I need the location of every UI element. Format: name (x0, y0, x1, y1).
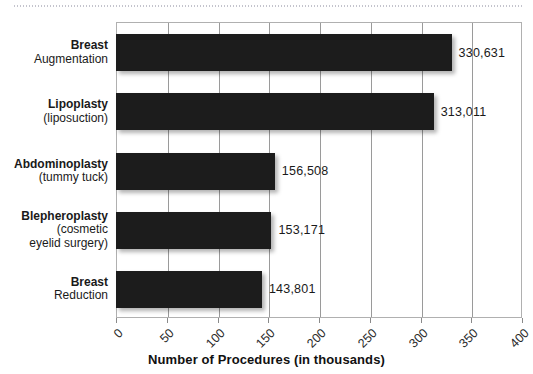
x-tick-mark (218, 318, 219, 323)
bar[interactable] (116, 93, 434, 130)
bar-row: 143,801 (116, 271, 522, 308)
x-tick-mark (471, 318, 472, 323)
bar[interactable] (116, 153, 275, 190)
category-label-line: (cosmetic (2, 223, 108, 237)
category-label-line: (liposuction) (2, 112, 108, 126)
bar-row: 313,011 (116, 93, 522, 130)
bar-row: 156,508 (116, 153, 522, 190)
x-tick-mark (167, 318, 168, 323)
bar-value-label: 156,508 (282, 164, 329, 178)
scan-artifact-dotted-line (14, 5, 522, 7)
bar-value-label: 143,801 (269, 282, 316, 296)
bar-value-label: 330,631 (459, 46, 506, 60)
category-label: Blepheroplasty(cosmeticeyelid surgery) (2, 210, 108, 251)
category-label-line: Reduction (2, 289, 108, 303)
category-label-line: (tummy tuck) (2, 171, 108, 185)
x-tick-mark (319, 318, 320, 323)
category-label-line: Lipoplasty (2, 98, 108, 112)
category-label: Lipoplasty(liposuction) (2, 98, 108, 125)
category-label: Abdominoplasty(tummy tuck) (2, 158, 108, 185)
bar-row: 153,171 (116, 212, 522, 249)
category-label: BreastReduction (2, 276, 108, 303)
bar-value-label: 313,011 (441, 105, 487, 119)
category-label-line: Augmentation (2, 53, 108, 67)
category-label-line: Breast (2, 39, 108, 53)
bar-chart-figure: Number of Procedures (in thousands) 330,… (0, 0, 533, 374)
bar-value-label: 153,171 (278, 223, 325, 237)
category-label-line: Breast (2, 276, 108, 290)
category-label-line: Blepheroplasty (2, 210, 108, 224)
category-label-line: Abdominoplasty (2, 158, 108, 172)
x-tick-mark (522, 318, 523, 323)
bar[interactable] (116, 34, 452, 71)
category-label: BreastAugmentation (2, 39, 108, 66)
category-label-line: eyelid surgery) (2, 237, 108, 251)
bar-row: 330,631 (116, 34, 522, 71)
x-tick-mark (116, 318, 117, 323)
bar[interactable] (116, 212, 271, 249)
bar[interactable] (116, 271, 262, 308)
x-tick-mark (421, 318, 422, 323)
x-tick-mark (268, 318, 269, 323)
x-tick-mark (370, 318, 371, 323)
